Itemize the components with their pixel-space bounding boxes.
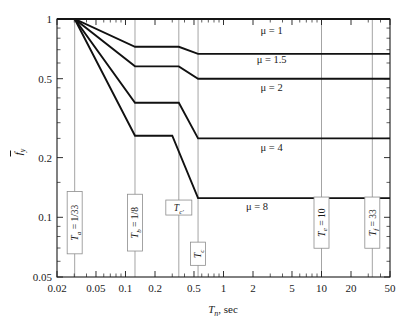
x-tick-label: 5: [289, 282, 295, 294]
x-tick-label: 0.02: [47, 282, 66, 294]
y-tick-label: 1: [47, 13, 53, 25]
y-tick-label: 0.2: [38, 152, 52, 164]
series-mu-8: [57, 19, 390, 198]
y-tick-label: 0.5: [38, 73, 52, 85]
series-mu-2: [57, 19, 390, 79]
svg-text:fy: fy: [12, 148, 27, 155]
series-label-mu-1: μ = 1: [261, 25, 283, 36]
x-axis-title: Tn, sec: [208, 303, 238, 318]
chart-figure: fy Tn, sec 0.020.050.10.20.512510205010.…: [0, 0, 413, 336]
series-label-mu-1-5: μ = 1.5: [257, 54, 287, 65]
y-tick-label: 0.05: [33, 271, 53, 283]
x-tick-label: 0.2: [148, 282, 162, 294]
series-label-mu-8: μ = 8: [246, 201, 268, 212]
x-tick-label: 0.5: [187, 282, 201, 294]
y-axis-title-sub: y: [18, 148, 27, 153]
x-tick-label: 0.1: [119, 282, 133, 294]
x-axis-title-tail: , sec: [218, 303, 238, 315]
x-tick-label: 20: [346, 282, 358, 294]
x-tick-label: 0.05: [86, 282, 106, 294]
plot-frame: [57, 19, 390, 277]
series-label-mu-4: μ = 4: [261, 142, 284, 153]
y-tick-label: 0.1: [38, 211, 52, 223]
plot-area: 0.020.050.10.20.512510205010.50.20.10.05…: [33, 13, 396, 294]
x-tick-label: 2: [250, 282, 256, 294]
x-tick-label: 1: [221, 282, 227, 294]
x-tick-label: 50: [385, 282, 397, 294]
chart-svg: fy Tn, sec 0.020.050.10.20.512510205010.…: [0, 0, 413, 336]
x-tick-label: 10: [316, 282, 328, 294]
y-axis-title: fy: [11, 148, 28, 156]
series-label-mu-2: μ = 2: [261, 82, 283, 93]
svg-text:Tn, sec: Tn, sec: [208, 303, 238, 318]
